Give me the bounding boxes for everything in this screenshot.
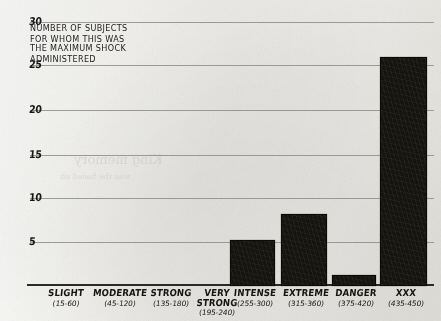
x-label-xxx-range: (435-450) [373, 299, 438, 308]
y-tick-label-10: 10 [28, 191, 42, 203]
x-label-xxx: XXX (435-450) [374, 288, 438, 308]
bar-intense [230, 240, 275, 286]
y-tick-label-5: 5 [28, 235, 35, 247]
gridline-20 [30, 110, 434, 111]
bar-danger [332, 275, 376, 286]
gridline-15 [30, 155, 434, 156]
y-tick-label-20: 20 [28, 103, 42, 115]
bar-xxx [380, 57, 427, 286]
chart-caption: NUMBER OF SUBJECTS FOR WHOM THIS WAS THE… [30, 24, 128, 65]
gridline-25 [30, 65, 434, 66]
x-label-very-strong-range: (195-240) [185, 308, 248, 317]
x-label-xxx-name: XXX [373, 288, 438, 299]
bar-chart: 30 25 20 15 10 5 NUMBER OF SUBJECTS FOR … [0, 0, 441, 321]
bar-extreme [281, 214, 327, 286]
gridline-10 [30, 198, 434, 199]
y-tick-label-15: 15 [28, 148, 42, 160]
